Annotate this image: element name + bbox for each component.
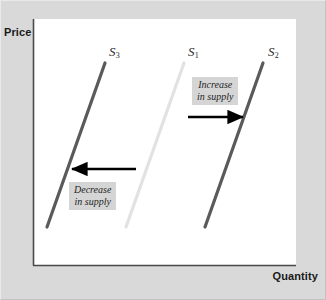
supply-shift-figure: Price Quantity S3 S1 bbox=[0, 0, 326, 300]
decrease-callout-line-2: in supply bbox=[74, 196, 111, 208]
curve-label-s1-subscript: 1 bbox=[195, 51, 199, 60]
curve-label-s3-text: S bbox=[109, 44, 116, 59]
curve-label-s1-text: S bbox=[188, 44, 195, 59]
decrease-in-supply-callout: Decrease in supply bbox=[69, 182, 116, 210]
increase-callout-line-1: Increase bbox=[197, 79, 233, 91]
curve-label-s2-subscript: 2 bbox=[275, 51, 279, 60]
curve-label-s2-text: S bbox=[268, 44, 275, 59]
increase-callout-line-2: in supply bbox=[197, 91, 233, 103]
curve-label-s3: S3 bbox=[109, 44, 120, 60]
increase-in-supply-callout: Increase in supply bbox=[192, 77, 238, 105]
curve-label-s2: S2 bbox=[268, 44, 279, 60]
curve-label-s1: S1 bbox=[188, 44, 199, 60]
decrease-callout-line-1: Decrease bbox=[74, 184, 111, 196]
supply-curve-s1 bbox=[126, 63, 184, 227]
curve-label-s3-subscript: 3 bbox=[116, 51, 120, 60]
